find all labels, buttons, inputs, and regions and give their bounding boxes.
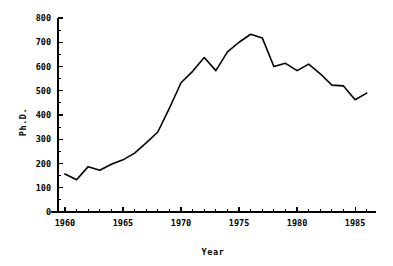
y-tick-label: 800 <box>36 13 51 23</box>
y-tick-label: 100 <box>36 183 51 193</box>
x-tick-label: 1980 <box>287 218 307 228</box>
x-tick-label: 1975 <box>229 218 249 228</box>
chart-figure: 0100200300400500600700800 19601965197019… <box>0 0 393 266</box>
x-tick-label: 1960 <box>55 218 75 228</box>
x-tick-label: 1985 <box>345 218 365 228</box>
x-tick-label: 1970 <box>171 218 191 228</box>
line-chart-canvas: 0100200300400500600700800 19601965197019… <box>0 0 393 266</box>
x-axis-ticks <box>65 207 355 212</box>
x-tick-label: 1965 <box>113 218 133 228</box>
y-axis-title: Ph.D. <box>18 108 28 137</box>
y-tick-label: 200 <box>36 159 51 169</box>
y-tick-label: 400 <box>36 110 51 120</box>
y-axis-tick-labels: 0100200300400500600700800 <box>36 13 51 217</box>
y-tick-label: 0 <box>46 207 51 217</box>
y-tick-label: 700 <box>36 37 51 47</box>
x-axis-title: Year <box>202 247 225 257</box>
x-axis-tick-labels: 196019651970197519801985 <box>55 218 366 228</box>
y-axis-ticks <box>58 18 63 212</box>
y-tick-label: 600 <box>36 62 51 72</box>
y-tick-label: 500 <box>36 86 51 96</box>
y-tick-label: 300 <box>36 134 51 144</box>
data-series-line <box>65 34 367 180</box>
